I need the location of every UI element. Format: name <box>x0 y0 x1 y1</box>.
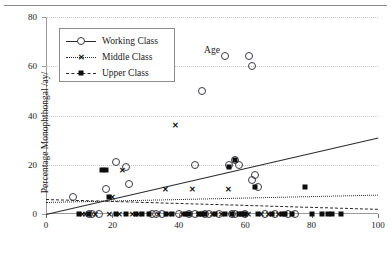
data-point <box>226 165 231 170</box>
legend-item-working-class: Working Class <box>60 33 174 49</box>
legend-key <box>66 35 96 47</box>
data-point <box>223 212 228 217</box>
data-point <box>253 184 258 189</box>
data-point <box>269 212 274 217</box>
data-point <box>302 184 307 189</box>
data-point <box>140 212 145 217</box>
legend-label: Middle Class <box>96 52 152 62</box>
data-point <box>248 62 256 70</box>
data-point <box>203 212 208 217</box>
data-point <box>133 212 138 217</box>
y-tick-80 <box>42 17 46 18</box>
data-point <box>289 212 294 217</box>
legend-marker-filled-square <box>79 71 84 76</box>
data-point <box>125 180 133 188</box>
y-axis-title: Percentage Monophthongal /ay/ <box>40 34 54 231</box>
figure: 020406080 020406080100 ✕✕✕✕✕✕✕✕✕✕✕✕✕✕✕✕✕… <box>0 0 391 257</box>
data-point <box>103 167 108 172</box>
data-point: ✕ <box>155 211 162 218</box>
gridline-y-20 <box>46 165 378 166</box>
data-point <box>87 212 92 217</box>
y-tick-label-20: 20 <box>28 160 37 170</box>
x-tick-label-60: 60 <box>241 220 250 230</box>
data-point <box>243 212 248 217</box>
legend-label: Working Class <box>96 36 158 46</box>
trendline-upper-class <box>46 199 378 210</box>
data-point <box>170 212 175 217</box>
x-tick-label-80: 80 <box>307 220 316 230</box>
top-rule <box>4 5 387 6</box>
data-point <box>329 212 334 217</box>
x-tick-label-100: 100 <box>371 220 385 230</box>
data-point <box>339 212 344 217</box>
legend-marker-x: ✕ <box>78 54 85 61</box>
x-tick-100 <box>378 214 379 218</box>
legend-key: ✕ <box>66 51 96 63</box>
data-point <box>251 171 259 179</box>
data-point <box>77 212 82 217</box>
y-tick-label-0: 0 <box>33 209 38 219</box>
data-point: ✕ <box>92 211 99 218</box>
data-point <box>319 212 324 217</box>
data-point <box>198 87 206 95</box>
data-point <box>229 212 234 217</box>
x-tick-label-20: 20 <box>108 220 117 230</box>
data-point: ✕ <box>162 186 169 193</box>
data-point: ✕ <box>225 186 232 193</box>
y-tick-label-40: 40 <box>28 111 37 121</box>
data-point <box>233 157 238 162</box>
legend: Working Class✕Middle ClassUpper Class <box>59 28 175 82</box>
data-point <box>283 212 288 217</box>
legend-item-upper-class: Upper Class <box>60 65 174 81</box>
legend-item-middle-class: ✕Middle Class <box>60 49 174 65</box>
data-point <box>256 212 261 217</box>
x-tick-label-40: 40 <box>174 220 183 230</box>
data-point <box>191 161 199 169</box>
data-point <box>213 212 218 217</box>
data-point: ✕ <box>106 211 113 218</box>
data-point <box>107 194 112 199</box>
data-point <box>123 212 128 217</box>
data-point: ✕ <box>172 122 179 129</box>
legend-key <box>66 67 96 79</box>
data-point <box>309 212 314 217</box>
legend-marker-open-circle <box>77 37 85 45</box>
data-point <box>163 212 168 217</box>
data-point <box>146 212 151 217</box>
legend-label: Upper Class <box>96 68 149 78</box>
y-tick-label-60: 60 <box>28 61 37 71</box>
y-tick-label-80: 80 <box>28 12 37 22</box>
gridline-y-40 <box>46 116 378 117</box>
data-point <box>186 212 191 217</box>
data-point <box>113 212 118 217</box>
gridline-y-80 <box>46 17 378 18</box>
data-point: ✕ <box>119 166 126 173</box>
data-point: ✕ <box>189 186 196 193</box>
data-point <box>69 193 77 201</box>
